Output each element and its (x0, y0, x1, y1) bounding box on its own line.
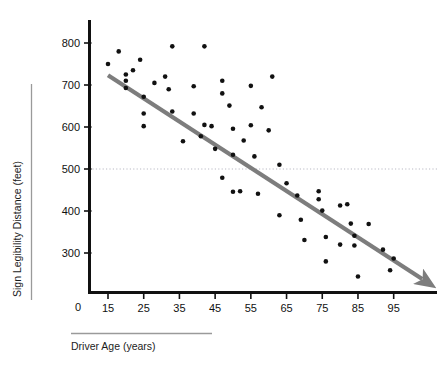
data-point (152, 81, 157, 86)
y-tick-label: 300 (62, 247, 80, 259)
data-point (381, 247, 386, 252)
y-axis-zero-label: 0 (75, 301, 81, 313)
x-tick-label: 25 (138, 302, 150, 314)
data-point (166, 87, 171, 92)
data-point (249, 123, 254, 128)
plot-surface: 300400500600700800 152535455565758595 0 … (0, 0, 439, 367)
data-point (391, 256, 396, 261)
data-point (209, 124, 214, 129)
data-point (231, 189, 236, 194)
data-point (202, 44, 207, 49)
x-tick-label: 15 (102, 302, 114, 314)
data-point (338, 203, 343, 208)
regression-trendline-stroke (108, 75, 422, 279)
data-point (106, 62, 111, 67)
x-tick-label: 85 (352, 302, 364, 314)
data-point (231, 152, 236, 157)
data-point (356, 274, 361, 279)
y-tick-label: 500 (62, 163, 80, 175)
data-point (324, 235, 329, 240)
x-tick-label: 45 (209, 302, 221, 314)
data-point (266, 128, 271, 133)
data-point (259, 105, 264, 110)
data-point (191, 111, 196, 116)
data-point (277, 213, 282, 218)
x-axis-title: Driver Age (years) (71, 340, 156, 352)
data-point (366, 222, 371, 227)
data-point (299, 218, 304, 223)
y-axis-title: Sign Legibility Distance (feet) (11, 161, 23, 297)
data-point (352, 233, 357, 238)
data-point (220, 176, 225, 181)
data-point (202, 123, 207, 128)
data-point (227, 103, 232, 108)
data-point (320, 208, 325, 213)
data-point (163, 74, 168, 79)
data-point (249, 84, 254, 89)
data-point (277, 163, 282, 168)
y-tick-label: 700 (62, 79, 80, 91)
data-point (124, 79, 129, 84)
y-axis-ticks: 300400500600700800 (62, 37, 92, 259)
x-axis-ticks: 152535455565758595 (102, 292, 400, 315)
data-point (316, 189, 321, 194)
data-point (324, 259, 329, 264)
data-point (231, 126, 236, 131)
data-point (213, 147, 218, 152)
data-point (124, 86, 129, 91)
x-tick-label: 65 (280, 302, 292, 314)
data-point (345, 202, 350, 207)
regression-trendline (108, 75, 422, 279)
data-point (170, 109, 175, 114)
data-point (270, 74, 275, 79)
data-point (388, 268, 393, 273)
scatter-chart: 300400500600700800 152535455565758595 0 … (0, 0, 439, 367)
data-point (352, 243, 357, 248)
data-point-group (106, 44, 396, 279)
data-point (170, 44, 175, 49)
data-point (349, 221, 354, 226)
y-tick-label: 600 (62, 121, 80, 133)
data-point (199, 134, 204, 139)
data-point (141, 94, 146, 99)
data-point (256, 191, 261, 196)
data-point (141, 111, 146, 116)
data-point (238, 189, 243, 194)
data-point (138, 58, 143, 63)
data-point (241, 138, 246, 143)
x-tick-label: 35 (173, 302, 185, 314)
y-tick-label: 400 (62, 205, 80, 217)
data-point (181, 139, 186, 144)
data-point (220, 79, 225, 84)
data-point (141, 124, 146, 129)
data-point (116, 49, 121, 54)
x-tick-label: 75 (316, 302, 328, 314)
data-point (295, 193, 300, 198)
data-point (284, 181, 289, 186)
y-tick-label: 800 (62, 37, 80, 49)
data-point (220, 91, 225, 96)
data-point (124, 72, 129, 77)
data-point (302, 238, 307, 243)
data-point (316, 197, 321, 202)
x-tick-label: 55 (245, 302, 257, 314)
data-point (191, 84, 196, 89)
data-point (338, 242, 343, 247)
data-point (131, 68, 136, 73)
data-point (252, 154, 257, 159)
x-tick-label: 95 (388, 302, 400, 314)
